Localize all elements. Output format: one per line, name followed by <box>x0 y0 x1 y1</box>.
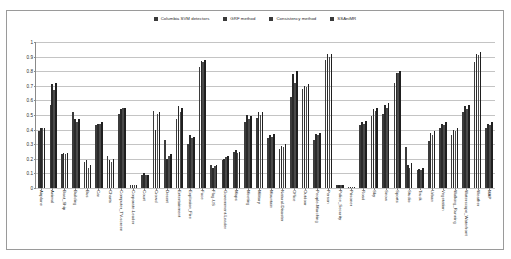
x-axis-label-cell: Outdoor <box>300 190 312 259</box>
bar-group <box>185 42 196 188</box>
x-axis-label: Sky <box>372 190 377 197</box>
bar <box>227 156 229 188</box>
bar-group <box>220 42 231 188</box>
bar-group <box>449 42 460 188</box>
bar-group <box>70 42 81 188</box>
bar-group <box>59 42 70 188</box>
x-axis-label-cell: Sports <box>392 190 404 259</box>
legend-swatch-icon <box>223 17 227 21</box>
x-axis-label-cell: Prisoner <box>346 190 358 259</box>
x-axis-label: Vegetation <box>441 190 446 211</box>
x-axis-label: Corporate-Leader <box>130 190 135 224</box>
bar <box>55 83 57 188</box>
bar <box>136 185 138 188</box>
bar <box>319 133 321 188</box>
bar-group <box>151 42 162 188</box>
x-axis-label: Weather <box>475 190 480 206</box>
y-tick-label: 0.8 <box>27 69 33 74</box>
x-axis-label-cell: Crowd <box>150 190 162 259</box>
bar-group <box>357 42 368 188</box>
legend-label: SSAniMR <box>337 16 356 21</box>
x-axis-label: Building <box>73 190 78 206</box>
bar <box>273 134 275 188</box>
y-tick-mark <box>34 188 36 189</box>
bar <box>204 60 206 188</box>
x-axis-label: Government-Leader <box>222 190 227 229</box>
x-axis-label: Entertainment <box>176 190 181 217</box>
x-axis-label: Computer_TV-screen <box>119 190 124 231</box>
x-axis-label: Explosion_Fire <box>188 190 193 219</box>
x-axis-label: Mountain <box>268 190 273 208</box>
bar-group <box>254 42 265 188</box>
bar-group <box>242 42 253 188</box>
x-axis-label-cell: People-Marching <box>311 190 323 259</box>
x-axis-label-cell: Vegetation <box>438 190 450 259</box>
bar-group <box>174 42 185 188</box>
x-axis-label-cell: Court <box>139 190 151 259</box>
x-axis-label-cell: Natural-Disaster <box>277 190 289 259</box>
bar-group <box>334 42 345 188</box>
y-tick-label: 0.7 <box>27 83 33 88</box>
x-axis-label: Office <box>291 190 296 201</box>
bar-group <box>403 42 414 188</box>
x-axis-label: Meeting <box>245 190 250 206</box>
gridline <box>36 188 495 189</box>
x-axis-label-cell: Person <box>323 190 335 259</box>
x-axis-label-cell: Meeting <box>242 190 254 259</box>
x-axis-label: People-Marching <box>314 190 319 223</box>
bar <box>411 163 413 188</box>
bar-group <box>208 42 219 188</box>
legend-item[interactable]: Consistency method <box>269 16 316 21</box>
chart-legend: Columbia SVM detectorsGRF methodConsiste… <box>7 16 503 21</box>
bar <box>296 71 298 188</box>
x-axis-label: Snow <box>383 190 388 201</box>
x-axis-label-cell: Computer_TV-screen <box>116 190 128 259</box>
y-tick-label: 0.3 <box>27 142 33 147</box>
bar <box>354 187 356 188</box>
bar-group <box>437 42 448 188</box>
y-tick-label: 0.1 <box>27 171 33 176</box>
bar <box>181 108 183 188</box>
bar-group <box>128 42 139 188</box>
plot-area: 00.10.20.30.40.50.60.70.80.91 <box>35 42 495 189</box>
bar <box>147 175 149 188</box>
x-axis-label-cell: Car <box>93 190 105 259</box>
x-axis-label-cell: Truck <box>415 190 427 259</box>
bar-group <box>311 42 322 188</box>
bar-group <box>380 42 391 188</box>
x-axis-label-cell: Sky <box>369 190 381 259</box>
legend-item[interactable]: SSAniMR <box>330 16 356 21</box>
x-axis-label: Animal <box>50 190 55 203</box>
legend-item[interactable]: Columbia SVM detectors <box>154 16 210 21</box>
bar-group <box>162 42 173 188</box>
x-axis-label-cell: Entertainment <box>173 190 185 259</box>
legend-label: GRF method <box>230 16 255 21</box>
x-axis-label: Studio <box>406 190 411 202</box>
bar-group <box>346 42 357 188</box>
bar <box>480 52 482 188</box>
x-axis-label-cell: Studio <box>403 190 415 259</box>
x-axis-label: Maps <box>234 190 239 201</box>
bar <box>376 108 378 188</box>
bar <box>331 54 333 188</box>
bar-group <box>300 42 311 188</box>
bar-group <box>288 42 299 188</box>
x-axis-label-cell: Flag-US <box>208 190 220 259</box>
bar-group <box>93 42 104 188</box>
x-axis-label: Walking_Running <box>452 190 457 224</box>
bar <box>285 144 287 188</box>
x-axis-label-cell: Military <box>254 190 266 259</box>
x-axis-label: Road <box>360 190 365 200</box>
x-axis-label: Bus <box>84 190 89 198</box>
y-tick-label: 0.6 <box>27 98 33 103</box>
legend-item[interactable]: GRF method <box>223 16 255 21</box>
x-axis-label: Car <box>96 190 101 197</box>
bar-group <box>105 42 116 188</box>
bar-group <box>139 42 150 188</box>
x-axis-label-cell: Police_Security <box>334 190 346 259</box>
bar <box>159 112 161 188</box>
y-tick-label: 0.9 <box>27 54 33 59</box>
x-axis-labels: AirplaneAnimalBoat_ShipBuildingBusCarCha… <box>35 190 495 259</box>
x-axis-label-cell: Mountain <box>265 190 277 259</box>
bar-group <box>323 42 334 188</box>
